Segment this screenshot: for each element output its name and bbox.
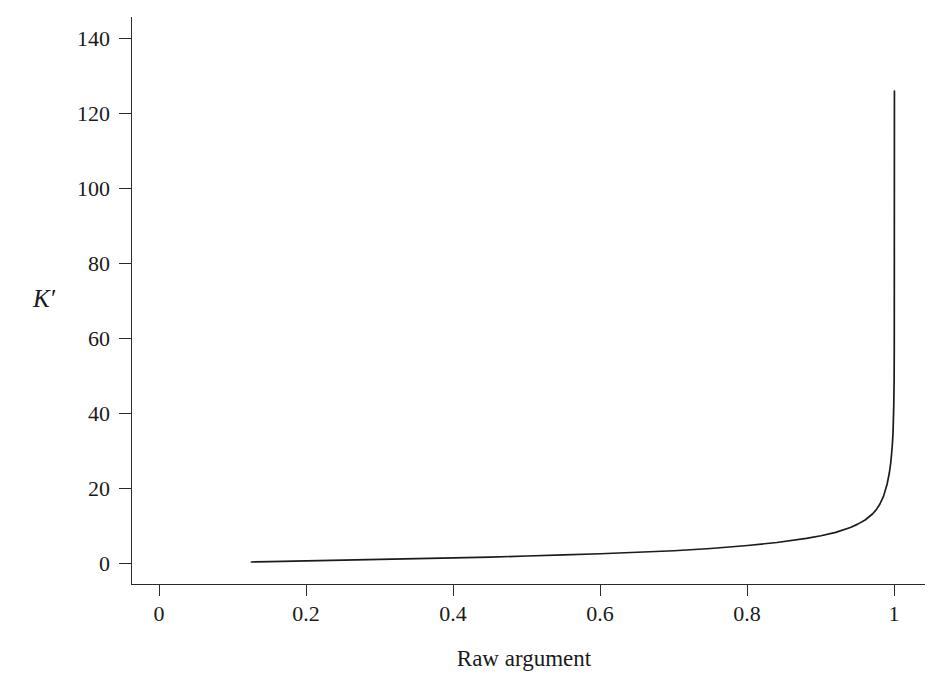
data-curve	[251, 91, 894, 562]
y-tick-label-20: 20	[88, 476, 110, 501]
y-tick-label-120: 120	[77, 101, 110, 126]
y-axis-title: K′	[32, 285, 56, 312]
x-tick-label-0-2: 0.2	[292, 601, 320, 626]
chart-figure: 0 20 40 60 80 100 120 140 0 0.2 0.4 0.6 …	[0, 0, 941, 687]
y-axis-tick-labels: 0 20 40 60 80 100 120 140	[77, 26, 110, 576]
x-axis-title: Raw argument	[457, 646, 592, 671]
y-tick-label-80: 80	[88, 251, 110, 276]
y-tick-label-40: 40	[88, 401, 110, 426]
y-tick-label-60: 60	[88, 326, 110, 351]
x-tick-label-0-8: 0.8	[733, 601, 761, 626]
x-tick-label-0-6: 0.6	[586, 601, 614, 626]
x-tick-label-0: 0	[154, 601, 165, 626]
elliptic-integral-plot: 0 20 40 60 80 100 120 140 0 0.2 0.4 0.6 …	[0, 0, 941, 687]
y-tick-label-140: 140	[77, 26, 110, 51]
x-tick-label-1: 1	[889, 601, 900, 626]
x-tick-label-0-4: 0.4	[439, 601, 467, 626]
x-axis-tick-labels: 0 0.2 0.4 0.6 0.8 1	[154, 601, 900, 626]
y-tick-label-0: 0	[99, 551, 110, 576]
y-tick-label-100: 100	[77, 176, 110, 201]
x-axis-ticks	[160, 584, 895, 596]
y-axis-ticks	[119, 39, 131, 564]
